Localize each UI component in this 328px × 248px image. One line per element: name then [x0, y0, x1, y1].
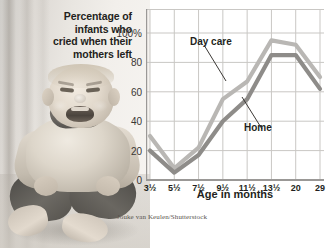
y-axis-tick-label: 60: [131, 86, 142, 97]
series-label-home: Home: [244, 122, 272, 133]
y-axis-tick-label: 20: [131, 145, 142, 156]
infant-nose: [74, 94, 86, 103]
infant-teeth: [71, 107, 89, 111]
data-series-day-care: [150, 40, 320, 168]
x-axis-title: Age in months: [146, 188, 324, 200]
infant-ear-right: [108, 88, 120, 106]
data-series-home: [150, 55, 320, 173]
infant-cheek-left: [52, 100, 68, 112]
caption-line: cried when their: [14, 35, 132, 48]
series-label-day-care: Day care: [190, 36, 232, 47]
line-chart: 020406080100%3½5½7½9½11½13½2029: [146, 9, 324, 181]
infant-hand-right: [96, 176, 120, 196]
plot-area: [146, 9, 324, 181]
y-axis-tick-label: 80: [131, 57, 142, 68]
caption-line: infants who: [14, 23, 132, 36]
photo-credit: Jouke van Keulen/Shutterstock: [117, 213, 207, 221]
y-axis-tick-label: 0: [136, 175, 142, 186]
caption-line: mothers left: [14, 48, 132, 61]
infant-hand-left: [34, 176, 58, 196]
y-axis-tick-label: 100%: [116, 28, 142, 39]
infant-hair: [48, 64, 114, 88]
chart-caption: Percentage of infants who cried when the…: [14, 10, 132, 60]
infant-cheek-right: [92, 100, 108, 112]
caption-line: Percentage of: [14, 10, 132, 23]
y-axis-tick-label: 40: [131, 116, 142, 127]
